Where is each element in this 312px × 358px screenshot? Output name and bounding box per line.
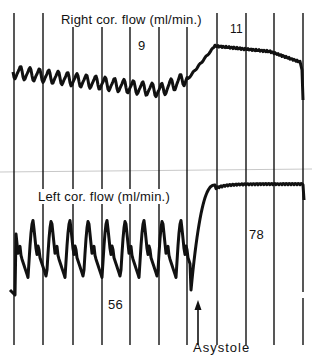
right-flow-title: Right cor. flow (ml/min.): [60, 12, 203, 27]
paper-guide-line: [0, 169, 312, 172]
left-flow-after-value: 78: [249, 227, 264, 242]
right-coronary-flow-trace: [13, 45, 303, 100]
coronary-flow-chart: [0, 0, 312, 358]
time-marker-lines: [14, 13, 303, 345]
left-flow-before-value: 56: [108, 297, 123, 312]
asystole-label: Asystole: [193, 340, 250, 355]
left-flow-title: Left cor. flow (ml/min.): [37, 189, 171, 204]
asystole-arrow-icon: [195, 300, 202, 345]
right-flow-before-value: 9: [138, 38, 145, 53]
right-flow-after-value: 11: [230, 22, 243, 36]
